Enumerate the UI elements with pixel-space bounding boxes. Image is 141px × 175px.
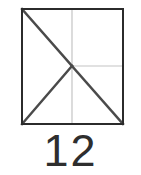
figure-container: 12: [0, 0, 141, 175]
caption-area: 12: [0, 128, 141, 175]
figure-caption-number: 12: [0, 128, 141, 173]
